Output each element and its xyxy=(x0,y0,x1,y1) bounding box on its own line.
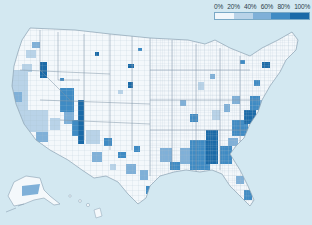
us-county-map xyxy=(0,0,312,225)
legend-labels: 0% 20% 40% 60% 80% 100% xyxy=(214,3,310,10)
legend-swatch-60-80 xyxy=(271,13,290,19)
legend-swatch-0-20 xyxy=(215,13,234,19)
map-legend: 0% 20% 40% 60% 80% 100% xyxy=(214,3,310,20)
legend-color-scale xyxy=(214,12,310,20)
alaska xyxy=(6,176,60,212)
legend-swatch-80-100 xyxy=(290,13,309,19)
hawaii xyxy=(69,195,102,218)
legend-label: 20% xyxy=(227,3,239,10)
legend-label: 80% xyxy=(277,3,289,10)
legend-swatch-40-60 xyxy=(253,13,272,19)
legend-label: 100% xyxy=(294,3,310,10)
legend-swatch-20-40 xyxy=(234,13,253,19)
legend-label: 40% xyxy=(244,3,256,10)
legend-label: 60% xyxy=(261,3,273,10)
legend-label: 0% xyxy=(214,3,223,10)
